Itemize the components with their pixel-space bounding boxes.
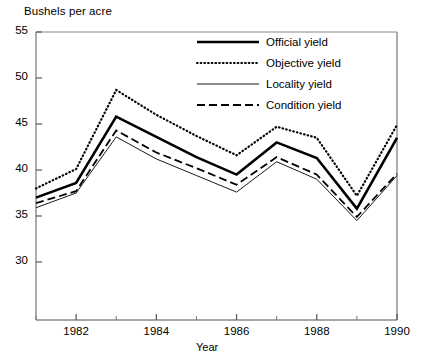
y-tick-label: 50: [4, 70, 28, 82]
x-tick-label: 1984: [136, 325, 176, 337]
series-line-locality-yield: [36, 137, 397, 221]
x-tick-label: 1988: [297, 325, 337, 337]
legend-label-condition-yield: Condition yield: [266, 99, 341, 111]
y-tick-label: 35: [4, 208, 28, 220]
line-chart-plot: Official yieldObjective yieldLocality yi…: [0, 0, 424, 363]
chart-figure: Bushels per acre Year Official yieldObje…: [0, 0, 424, 363]
y-tick-label: 45: [4, 116, 28, 128]
series-layer: [36, 90, 397, 221]
legend-label-official-yield: Official yield: [266, 36, 328, 48]
y-tick-label: 40: [4, 162, 28, 174]
x-tick-label: 1982: [56, 325, 96, 337]
legend-label-locality-yield: Locality yield: [266, 78, 332, 90]
legend-label-objective-yield: Objective yield: [266, 57, 341, 69]
legend-layer: Official yieldObjective yieldLocality yi…: [197, 36, 341, 111]
y-tick-label: 30: [4, 254, 28, 266]
y-axis-title: Bushels per acre: [24, 5, 112, 17]
x-tick-label: 1986: [217, 325, 257, 337]
x-axis-title: Year: [196, 341, 218, 353]
x-tick-label: 1990: [377, 325, 417, 337]
series-line-official-yield: [36, 117, 397, 209]
y-tick-label: 55: [4, 24, 28, 36]
